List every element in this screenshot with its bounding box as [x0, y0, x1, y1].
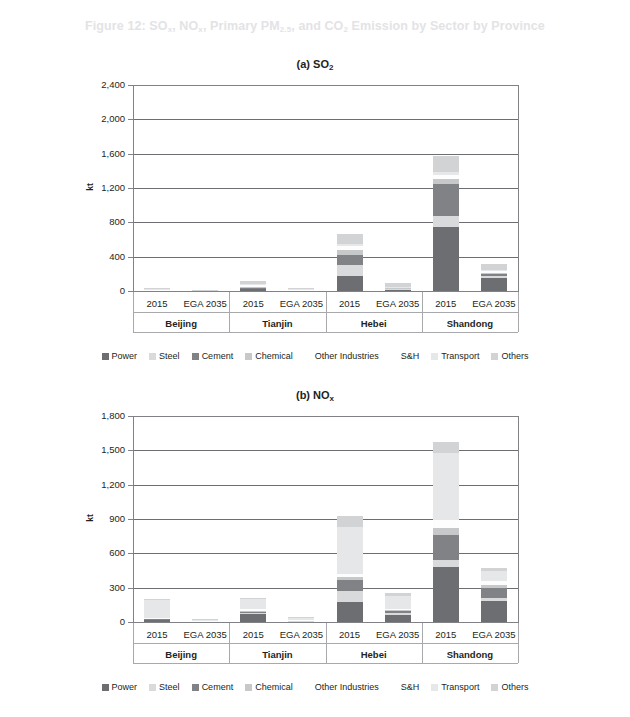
- legend-swatch-icon: [305, 684, 312, 691]
- x-axis-province-label: Hebei: [326, 318, 422, 329]
- bar-segment: [240, 284, 266, 285]
- figure-title: Figure 12: SOx, NOx, Primary PM2.5, and …: [0, 19, 630, 33]
- bar-segment: [337, 516, 363, 527]
- axis-label-row-bottom: [133, 332, 518, 333]
- legend-swatch-icon: [245, 684, 252, 691]
- bar-segment: [481, 273, 507, 274]
- legend-label: Cement: [202, 351, 234, 361]
- gridline: [133, 154, 518, 155]
- bar-segment: [337, 234, 363, 243]
- y-axis-tick-label: 1,600: [80, 149, 125, 159]
- y-axis-tick-label: 300: [80, 583, 125, 593]
- legend-swatch-icon: [491, 684, 498, 691]
- x-axis-scenario-label: EGA 2035: [374, 629, 422, 640]
- legend-label: Chemical: [255, 351, 293, 361]
- bar-segment: [433, 528, 459, 535]
- bar-segment: [144, 600, 170, 617]
- x-axis-scenario-label: 2015: [229, 298, 277, 309]
- gridline: [133, 188, 518, 189]
- plot-right-border: [518, 85, 519, 292]
- bar-segment: [144, 618, 170, 619]
- bar-segment: [240, 611, 266, 612]
- legend-item: Steel: [149, 351, 180, 361]
- bar-segment: [481, 598, 507, 601]
- y-axis-line: [133, 416, 134, 623]
- bar-segment: [337, 248, 363, 250]
- stacked-bar: [144, 85, 170, 291]
- gridline: [133, 553, 518, 554]
- stacked-bar: [481, 85, 507, 291]
- legend-swatch-icon: [192, 353, 199, 360]
- x-axis-scenario-label: 2015: [133, 629, 181, 640]
- bar-segment: [385, 287, 411, 288]
- x-axis-scenario-label: EGA 2035: [277, 298, 325, 309]
- x-axis-scenario-label: EGA 2035: [470, 629, 518, 640]
- axis-label-row-bottom: [133, 663, 518, 664]
- stacked-bar: [240, 416, 266, 622]
- bar-segment: [337, 265, 363, 275]
- bar-segment: [433, 227, 459, 291]
- x-axis-province-label: Shandong: [422, 649, 518, 660]
- bar-segment: [385, 613, 411, 615]
- bar-segment: [481, 270, 507, 271]
- legend-swatch-icon: [245, 353, 252, 360]
- bar-segment: [433, 567, 459, 622]
- y-axis-line: [133, 85, 134, 292]
- bar-segment: [144, 289, 170, 290]
- bar-segment: [337, 577, 363, 580]
- bar-segment: [337, 591, 363, 602]
- bar-segment: [337, 255, 363, 265]
- stacked-bar: [288, 85, 314, 291]
- legend-item: Chemical: [245, 351, 293, 361]
- x-axis-scenario-label: 2015: [326, 629, 374, 640]
- stacked-bar: [240, 85, 266, 291]
- bar-segment: [433, 172, 459, 175]
- bar-segment: [433, 175, 459, 177]
- bar-segment: [481, 568, 507, 571]
- x-axis-scenario-label: 2015: [133, 298, 181, 309]
- bar-segment: [240, 609, 266, 610]
- legend-label: Power: [112, 682, 138, 692]
- y-axis-tick-label: 1,800: [80, 411, 125, 421]
- plot-area-so2: kt04008001,2001,6002,0002,4002015EGA 203…: [0, 71, 630, 356]
- bar-segment: [337, 250, 363, 255]
- legend-label: Cement: [202, 682, 234, 692]
- bar-segment: [481, 278, 507, 291]
- y-axis-tick-label: 2,400: [80, 80, 125, 90]
- legend-label: Transport: [441, 351, 479, 361]
- y-axis-tick-label: 1,200: [80, 183, 125, 193]
- legend-so2: PowerSteelCementChemicalOther Industries…: [0, 348, 630, 364]
- legend-item: Others: [491, 682, 528, 692]
- legend-item: Transport: [431, 351, 479, 361]
- axis-label-row-divider: [133, 312, 518, 313]
- gridline: [133, 257, 518, 258]
- legend-swatch-icon: [149, 353, 156, 360]
- x-axis-province-label: Tianjin: [229, 318, 325, 329]
- stacked-bar: [385, 85, 411, 291]
- bar-segment: [433, 535, 459, 560]
- x-axis-scenario-label: 2015: [229, 629, 277, 640]
- bar-segment: [481, 276, 507, 278]
- gridline: [133, 485, 518, 486]
- bar-segment: [433, 156, 459, 171]
- bar-segment: [288, 617, 314, 620]
- stacked-bar: [433, 85, 459, 291]
- bar-segment: [337, 580, 363, 591]
- panel-b-title: (b) NOx: [0, 388, 630, 402]
- bar-segment: [192, 619, 218, 620]
- x-axis-province-label: Shandong: [422, 318, 518, 329]
- bar-segment: [337, 602, 363, 622]
- bar-segment: [385, 283, 411, 286]
- axis-label-row-divider: [133, 643, 518, 644]
- legend-item: S&H: [391, 351, 420, 361]
- bar-segment: [481, 588, 507, 598]
- x-axis-province-label: Beijing: [133, 649, 229, 660]
- x-axis-scenario-label: EGA 2035: [181, 298, 229, 309]
- legend-swatch-icon: [491, 353, 498, 360]
- gridline: [133, 119, 518, 120]
- stacked-bar: [433, 416, 459, 622]
- legend-item: Cement: [192, 351, 234, 361]
- legend-label: Chemical: [255, 682, 293, 692]
- legend-label: Transport: [441, 682, 479, 692]
- legend-label: Steel: [159, 682, 180, 692]
